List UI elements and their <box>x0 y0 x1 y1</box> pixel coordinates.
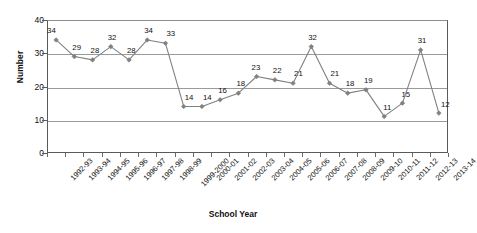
x-axis-tick-mark <box>47 153 48 157</box>
y-axis-tick-label: 0 <box>18 149 44 158</box>
y-axis-tick-label: 20 <box>18 83 44 92</box>
x-axis-tick-mark <box>339 153 340 157</box>
y-axis-tick-label: 10 <box>18 116 44 125</box>
data-value-label: 29 <box>72 44 81 52</box>
data-value-label: 21 <box>331 70 340 78</box>
data-value-label: 14 <box>185 94 194 102</box>
x-axis-tick-mark <box>120 153 121 157</box>
data-value-label: 28 <box>127 47 136 55</box>
x-axis-tick-mark <box>357 153 358 157</box>
y-axis-tick-label: 40 <box>18 16 44 25</box>
x-axis-tick-mark <box>320 153 321 157</box>
x-axis-title: School Year <box>0 209 466 219</box>
data-value-label: 21 <box>294 70 303 78</box>
x-axis-tick-mark <box>138 153 139 157</box>
data-value-label: 28 <box>91 47 100 55</box>
x-axis-tick-mark <box>430 153 431 157</box>
x-axis-tick-mark <box>302 153 303 157</box>
data-value-label: 33 <box>166 30 175 38</box>
data-value-label: 22 <box>273 67 282 75</box>
y-axis-title: Number <box>15 32 25 102</box>
x-axis-tick-mark <box>175 153 176 157</box>
gridline <box>48 121 447 122</box>
gridline <box>48 88 447 89</box>
data-value-label: 12 <box>441 101 450 109</box>
x-axis-tick-mark <box>448 153 449 157</box>
data-value-label: 34 <box>47 27 56 35</box>
x-axis-tick-mark <box>266 153 267 157</box>
x-axis-tick-mark <box>284 153 285 157</box>
x-axis-tick-mark <box>412 153 413 157</box>
data-value-label: 11 <box>383 104 391 112</box>
x-axis-tick-mark <box>229 153 230 157</box>
x-axis-tick-mark <box>102 153 103 157</box>
data-value-label: 31 <box>418 37 427 45</box>
x-axis-tick-mark <box>375 153 376 157</box>
x-axis-tick-mark <box>156 153 157 157</box>
gridline <box>48 54 447 55</box>
x-axis-tick-mark <box>211 153 212 157</box>
data-value-label: 16 <box>218 87 227 95</box>
data-value-label: 18 <box>346 80 355 88</box>
y-axis-tick-label: 30 <box>18 49 44 58</box>
x-axis-tick-mark <box>193 153 194 157</box>
data-value-label: 19 <box>364 77 373 85</box>
data-value-label: 32 <box>308 34 317 42</box>
x-axis-tick-mark <box>393 153 394 157</box>
x-axis-tick-mark <box>248 153 249 157</box>
data-value-label: 32 <box>108 34 117 42</box>
data-value-label: 23 <box>252 64 261 72</box>
data-value-label: 14 <box>203 94 212 102</box>
data-value-label: 15 <box>401 91 410 99</box>
data-value-label: 18 <box>236 80 245 88</box>
x-axis-tick-mark <box>65 153 66 157</box>
data-value-label: 34 <box>144 27 153 35</box>
x-axis-tick-mark <box>83 153 84 157</box>
